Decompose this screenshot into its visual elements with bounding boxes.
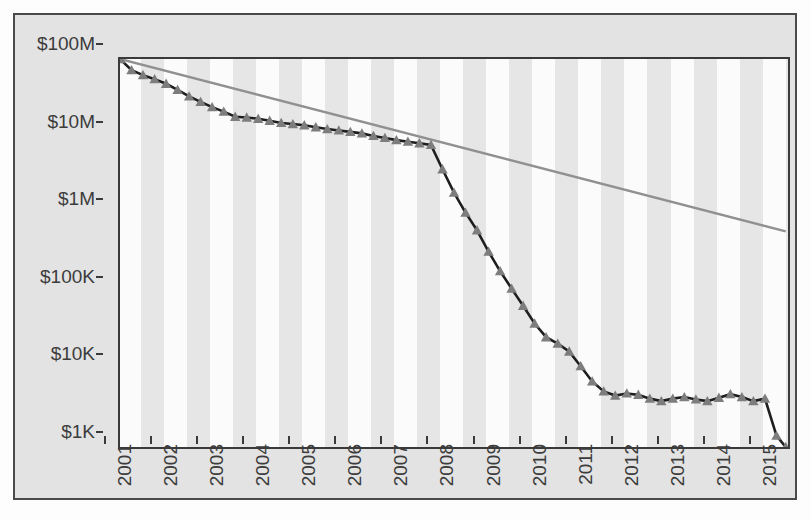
x-axis-tick-mark: [104, 436, 106, 444]
x-axis-tick-label: 2007: [390, 444, 412, 486]
x-axis-tick-mark: [242, 436, 244, 444]
x-axis-tick-mark: [657, 436, 659, 444]
x-axis-tick-mark: [611, 436, 613, 444]
x-axis-tick-mark: [150, 436, 152, 444]
x-axis-tick-label: 2015: [759, 444, 781, 486]
x-axis-tick-label: 2004: [252, 444, 274, 486]
x-axis-tick-label: 2012: [621, 444, 643, 486]
x-axis: 2001200220032004200520062007200820092010…: [0, 0, 811, 520]
x-axis-tick-mark: [703, 436, 705, 444]
x-axis-tick-mark: [380, 436, 382, 444]
x-axis-tick-label: 2001: [114, 444, 136, 486]
x-axis-tick-mark: [426, 436, 428, 444]
x-axis-tick-label: 2011: [575, 444, 597, 485]
x-axis-tick-mark: [565, 436, 567, 444]
x-axis-tick-mark: [334, 436, 336, 444]
x-axis-tick-label: 2014: [713, 444, 735, 486]
x-axis-tick-mark: [473, 436, 475, 444]
x-axis-tick-label: 2010: [529, 444, 551, 486]
x-axis-tick-label: 2002: [160, 444, 182, 486]
x-axis-tick-mark: [288, 436, 290, 444]
x-axis-tick-mark: [519, 436, 521, 444]
x-axis-tick-label: 2006: [344, 444, 366, 486]
x-axis-tick-label: 2003: [206, 444, 228, 486]
chart-page: $100M$10M$1M$100K$10K$1K 200120022003200…: [0, 0, 811, 520]
x-axis-tick-label: 2005: [298, 444, 320, 486]
x-axis-tick-mark: [749, 436, 751, 444]
x-axis-tick-label: 2009: [483, 444, 505, 486]
x-axis-tick-mark: [196, 436, 198, 444]
x-axis-tick-label: 2013: [667, 444, 689, 486]
x-axis-tick-label: 2008: [436, 444, 458, 486]
